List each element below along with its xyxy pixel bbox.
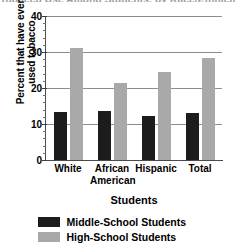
y-major-tick-0	[42, 160, 47, 161]
x-tick-label-hispanic: Hispanic	[134, 163, 178, 186]
bar-middle-school-white	[54, 112, 67, 160]
x-tick-label-total: Total	[178, 163, 222, 186]
bar-high-school-african-american	[114, 83, 127, 160]
bar-high-school-hispanic	[158, 72, 171, 160]
bar-middle-school-african-american	[98, 111, 111, 160]
x-axis-title: Students	[46, 194, 222, 206]
legend-label-middle-school: Middle-School Students	[67, 216, 187, 228]
legend-item-high-school: High-School Students	[38, 231, 198, 243]
bar-middle-school-total	[186, 113, 199, 160]
x-axis-line	[45, 160, 223, 161]
legend-swatch-middle-school-icon	[38, 217, 60, 227]
bar-middle-school-hispanic	[142, 116, 155, 160]
y-tick-label-20: 20	[31, 83, 42, 94]
bar-high-school-total	[202, 58, 215, 160]
bar-groups	[46, 16, 222, 160]
chart-legend: Middle-School Students High-School Stude…	[0, 216, 235, 243]
y-tick-label-10: 10	[31, 119, 42, 130]
y-tick-label-30: 30	[31, 47, 42, 58]
bar-group-african-american	[98, 16, 127, 160]
bar-group-total	[186, 16, 215, 160]
y-tick-label-40: 40	[31, 11, 42, 22]
x-tick-label-african-american: African American	[90, 163, 134, 186]
bar-group-white	[54, 16, 83, 160]
bar-high-school-white	[70, 48, 83, 160]
y-tick-label-0: 0	[36, 155, 42, 166]
x-axis-tick-labels: White African American Hispanic Total	[46, 163, 222, 186]
legend-label-high-school: High-School Students	[67, 231, 177, 243]
tobacco-use-bar-chart: Tobacco Use Among Students, by Race/Ethn…	[0, 0, 235, 252]
legend-swatch-high-school-icon	[38, 232, 60, 242]
plot-area: 40 30 20 10 0	[46, 16, 222, 160]
bar-group-hispanic	[142, 16, 171, 160]
legend-item-middle-school: Middle-School Students	[38, 216, 198, 228]
x-tick-label-white: White	[46, 163, 90, 186]
y-axis-title-line-1: Percent that have ever	[15, 0, 26, 104]
